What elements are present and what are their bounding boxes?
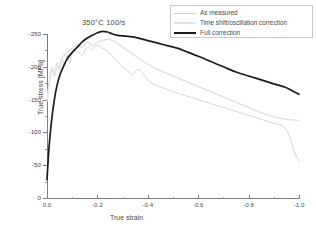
chart-root: 350°C 100/s As measured Time shift/oscil… <box>0 0 316 232</box>
series-line <box>47 31 299 179</box>
chart-curves <box>0 0 316 232</box>
series-line <box>47 45 299 161</box>
